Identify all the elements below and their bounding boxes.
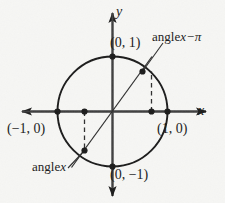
- point-dot-foot-left: [81, 108, 87, 114]
- unit-circle-figure: x y (0, 1) (1, 0) (−1, 0) (0, −1) anglex…: [0, 0, 225, 203]
- point-label-bottom: (0, −1): [110, 168, 148, 182]
- point-dot-left: [54, 108, 60, 114]
- annotation-angle-x-math: x: [60, 159, 66, 174]
- x-axis-label: x: [198, 104, 204, 118]
- point-label-left: (−1, 0): [7, 122, 45, 136]
- point-dot-right: [164, 108, 170, 114]
- leader-line-angle-x-minus-pi: [143, 43, 164, 72]
- annotation-angle-x-minus-pi-prefix: angle: [152, 29, 180, 44]
- point-dot-top: [109, 53, 115, 59]
- annotation-angle-x-prefix: angle: [32, 159, 60, 174]
- point-label-right: (1, 0): [157, 122, 187, 136]
- point-dot-terminal-lower-left: [81, 147, 87, 153]
- point-dot-terminal-upper-right: [139, 68, 145, 74]
- annotation-angle-x: anglex: [32, 160, 66, 173]
- point-label-top: (0, 1): [110, 36, 140, 50]
- y-axis-label: y: [116, 5, 122, 19]
- annotation-angle-x-minus-pi-math: x−π: [180, 29, 201, 44]
- annotation-angle-x-minus-pi: anglex−π: [152, 30, 201, 43]
- point-dot-foot-right: [148, 108, 154, 114]
